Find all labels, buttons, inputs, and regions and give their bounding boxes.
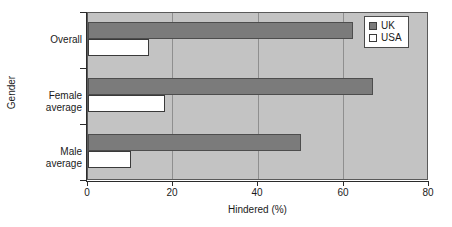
y-tick-label-overall: Overall [22, 34, 82, 46]
bar-chart-figure: Gender Overall Female average Male avera… [0, 0, 452, 227]
y-tick-mark-top [80, 12, 87, 13]
legend-entry-uk: UK [369, 20, 402, 32]
x-tick-label-60: 60 [323, 187, 363, 198]
x-tick-mark-80 [428, 182, 429, 186]
y-tick-mark-1 [80, 68, 87, 69]
y-tick-mark-2 [80, 124, 87, 125]
x-tick-label-40: 40 [237, 187, 277, 198]
legend-label-usa: USA [381, 33, 402, 43]
y-axis-title-text: Gender [7, 76, 18, 109]
x-tick-mark-0 [87, 182, 88, 186]
x-tick-mark-60 [343, 182, 344, 186]
y-axis-title: Gender [0, 0, 24, 185]
x-tick-mark-40 [257, 182, 258, 186]
y-tick-label-female-average: Female average [22, 90, 82, 113]
x-tick-label-80: 80 [408, 187, 448, 198]
bar-usa-male-average [88, 151, 131, 168]
y-tick-label-male-line1: Male [22, 146, 82, 158]
y-tick-label-male-average: Male average [22, 146, 82, 169]
y-axis-tick-labels: Overall Female average Male average [22, 12, 85, 180]
bar-usa-female-average [88, 95, 165, 112]
bar-usa-overall [88, 39, 149, 56]
x-tick-label-0: 0 [67, 187, 107, 198]
y-tick-label-female-line2: average [22, 102, 82, 114]
bar-uk-female-average [88, 78, 373, 95]
y-tick-label-overall-line1: Overall [22, 34, 82, 46]
legend-swatch-uk-icon [369, 22, 377, 30]
y-tick-label-male-line2: average [22, 158, 82, 170]
legend-label-uk: UK [381, 21, 395, 31]
bar-uk-male-average [88, 134, 301, 151]
bar-uk-overall [88, 22, 353, 39]
y-tick-label-female-line1: Female [22, 90, 82, 102]
x-tick-mark-20 [172, 182, 173, 186]
legend-entry-usa: USA [369, 32, 402, 44]
y-axis-line [86, 12, 87, 181]
chart-legend: UK USA [364, 16, 409, 48]
x-axis-title: Hindered (%) [87, 204, 428, 215]
x-tick-label-20: 20 [152, 187, 192, 198]
legend-swatch-usa-icon [369, 34, 377, 42]
